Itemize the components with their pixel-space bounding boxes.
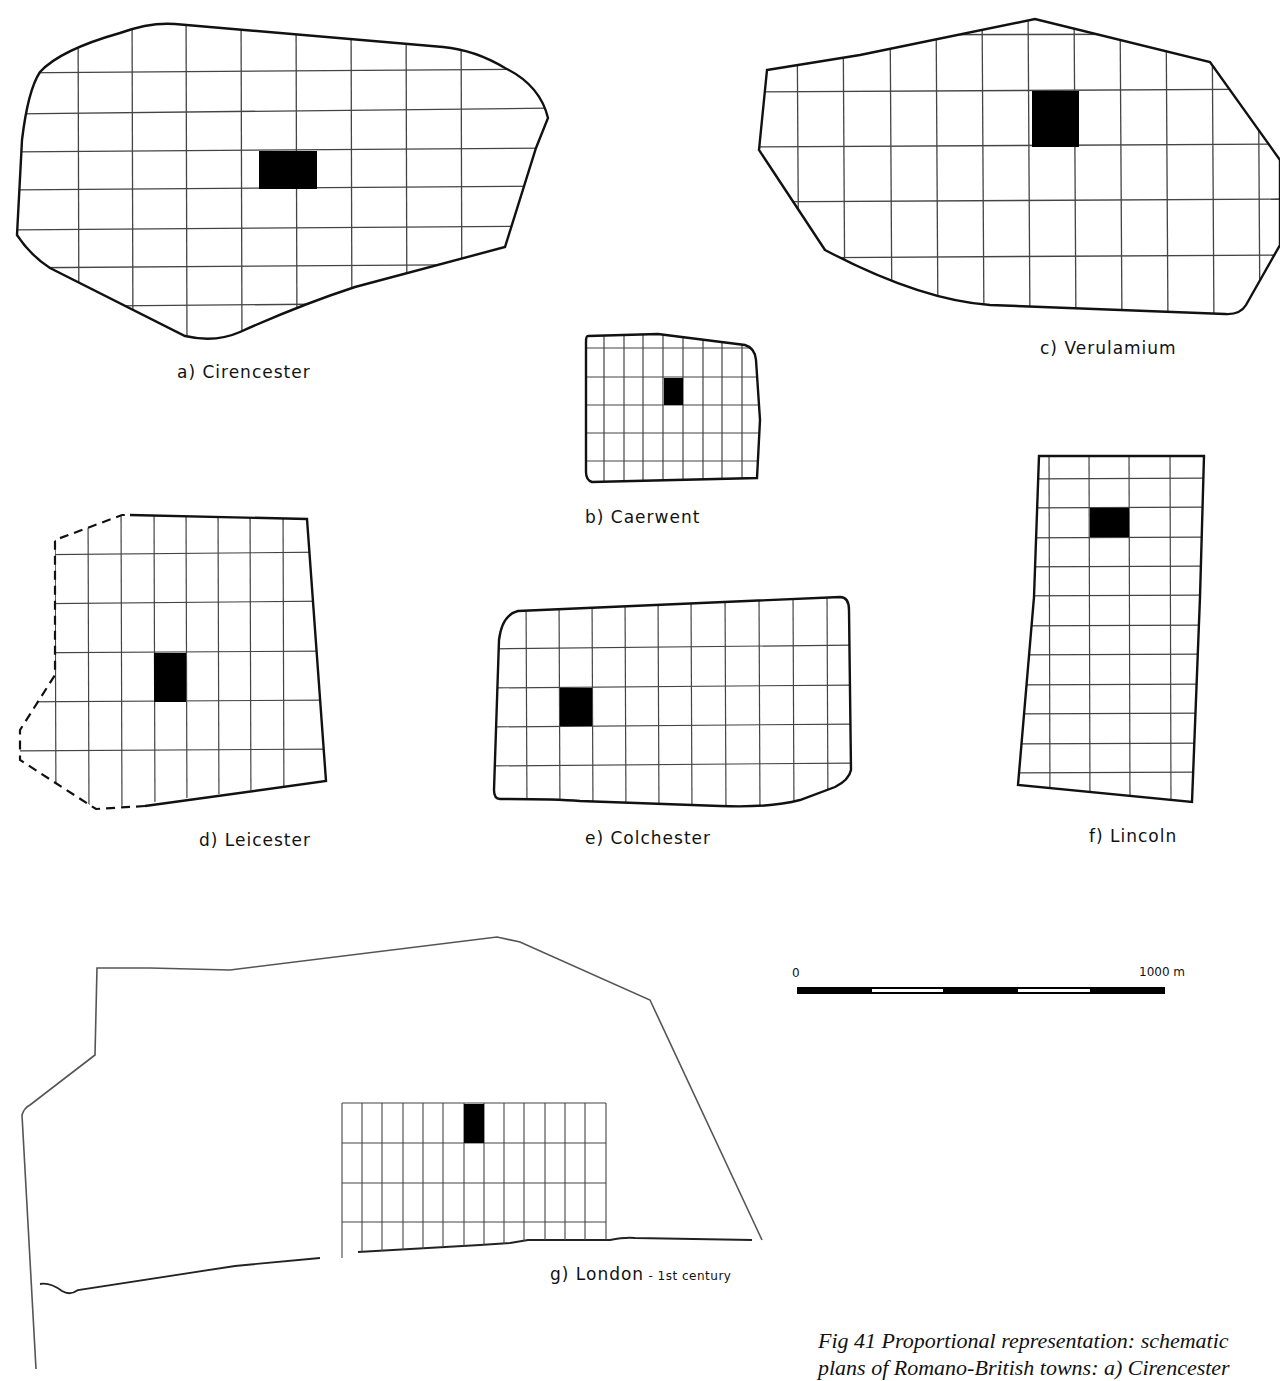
city-wall <box>22 937 762 1369</box>
scale-bar-segment <box>1018 989 1090 992</box>
label-lincoln: f) Lincoln <box>1089 826 1177 846</box>
label-verulamium: c) Verulamium <box>1040 338 1177 358</box>
forum-block <box>560 688 592 726</box>
label-colchester: e) Colchester <box>585 828 711 848</box>
town-plan-leicester <box>0 500 340 820</box>
river-frontage-west <box>40 1258 320 1293</box>
scale-end-label: 1000 m <box>1139 965 1185 979</box>
label-cirencester: a) Cirencester <box>177 362 311 382</box>
town-plan-colchester <box>480 590 860 815</box>
street-grid <box>480 590 860 815</box>
town-wall <box>586 334 760 482</box>
town-plan-lincoln <box>1000 445 1220 810</box>
scale-bar <box>797 987 1165 994</box>
caption-line-1: Fig 41 Proportional representation: sche… <box>818 1327 1230 1354</box>
caption-line-2: plans of Romano-British towns: a) Cirenc… <box>818 1354 1230 1381</box>
forum-block <box>1032 91 1079 147</box>
scale-bar-track <box>797 987 1165 994</box>
label-london-period: - 1st century <box>644 1269 731 1283</box>
river-frontage-east <box>358 1238 752 1252</box>
label-caerwent: b) Caerwent <box>585 507 700 527</box>
town-plan-london <box>22 937 762 1369</box>
town-plan-caerwent <box>580 330 770 490</box>
town-wall <box>494 597 851 806</box>
label-leicester: d) Leicester <box>199 830 311 850</box>
scale-start-label: 0 <box>792 966 800 980</box>
street-grid <box>1000 445 1220 810</box>
forum-block <box>259 151 317 189</box>
town-plan-verulamium <box>750 0 1280 330</box>
label-london: g) London - 1st century <box>550 1264 731 1284</box>
forum-block <box>464 1104 484 1143</box>
label-london-name: g) London <box>550 1264 644 1284</box>
forum-block <box>664 378 683 405</box>
street-grid <box>580 330 770 490</box>
town-wall-conjectural <box>20 515 145 809</box>
street-grid <box>750 0 1280 330</box>
scale-bar-segment <box>872 989 943 992</box>
town-plan-cirencester <box>0 0 560 350</box>
forum-block <box>1090 508 1129 537</box>
figure-caption: Fig 41 Proportional representation: sche… <box>818 1327 1230 1381</box>
town-wall <box>759 19 1280 314</box>
forum-block <box>154 653 186 702</box>
